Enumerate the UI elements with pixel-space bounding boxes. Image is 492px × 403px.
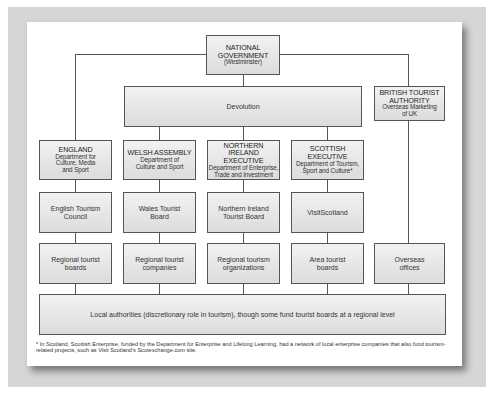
ni-board-line-2: Tourist Board [223, 213, 264, 221]
overseas-line-2: offices [399, 264, 419, 272]
wales-sub-2: Culture and Sport [136, 164, 184, 171]
welsh-assembly-box: WELSH ASSEMBLY Department of Culture and… [123, 140, 196, 180]
england-sub-3: and Sport [62, 167, 88, 174]
national-government-sub: (Westminster) [224, 59, 262, 66]
ni-sub-2: Trade and Investment [214, 172, 273, 179]
connector-devolution-scotland [327, 126, 328, 140]
scotland-board-line-1: VisitScotland [307, 209, 347, 217]
regional-tourist-companies-box: Regional tourist companies [123, 243, 196, 284]
connector-col4-r3 [327, 283, 328, 294]
connector-col1-r3 [75, 283, 76, 294]
wales-tourist-board-box: Wales Tourist Board [123, 192, 196, 233]
local-authorities-label: Local authorities (discretionary role in… [90, 311, 394, 319]
wales-regional-line-1: Regional tourist [135, 256, 184, 264]
footnote: * In Scotland, Scottish Enterprise, fund… [36, 341, 456, 354]
english-board-line-2: Council [64, 213, 87, 221]
northern-ireland-executive-box: NORTHERN IRELAND EXECUTIVE Department of… [207, 140, 280, 180]
connector-england-drop [75, 54, 76, 140]
devolution-label: Devolution [226, 103, 259, 111]
connector-col2-r1 [159, 179, 160, 192]
england-regional-line-2: boards [65, 264, 86, 272]
overseas-offices-box: Overseas offices [374, 243, 445, 284]
local-authorities-box: Local authorities (discretionary role in… [39, 294, 446, 335]
connector-bta-drop [408, 54, 409, 86]
ni-board-line-1: Northern Ireland [218, 205, 269, 213]
scottish-executive-box: SCOTTISH EXECUTIVE Department of Tourism… [291, 140, 364, 180]
regional-tourism-organizations-box: Regional tourism organizations [207, 243, 280, 284]
connector-col4-r1 [327, 179, 328, 192]
england-regional-line-1: Regional tourist [51, 256, 100, 264]
national-government-box: NATIONAL GOVERNMENT (Westminster) [206, 35, 280, 75]
visitscotland-box: VisitScotland [291, 192, 364, 233]
connector-col3-r3 [243, 283, 244, 294]
connector-col4-r2 [327, 232, 328, 243]
connector-devolution-ni [243, 126, 244, 140]
ni-regional-line-1: Regional tourism [217, 256, 270, 264]
ni-regional-line-2: organizations [223, 264, 265, 272]
area-tourist-boards-box: Area tourist boards [291, 243, 364, 284]
connector-overseas-local [408, 283, 409, 294]
connector-devolution-wales [159, 126, 160, 140]
scotland-regional-line-2: boards [317, 264, 338, 272]
devolution-box: Devolution [124, 86, 362, 127]
wales-regional-line-2: companies [143, 264, 177, 272]
northern-ireland-tourist-board-box: Northern Ireland Tourist Board [207, 192, 280, 233]
wales-board-line-1: Wales Tourist [139, 205, 181, 213]
overseas-line-1: Overseas [395, 256, 425, 264]
connector-col1-r1 [75, 179, 76, 192]
figure-caption-cropped [8, 397, 308, 403]
england-department-box: ENGLAND Department for Culture, Media an… [39, 140, 112, 180]
connector-col3-r2 [243, 232, 244, 243]
english-tourism-council-box: English Tourism Council [39, 192, 112, 233]
scotland-sub-2: Sport and Culture* [302, 168, 352, 175]
regional-tourist-boards-box: Regional tourist boards [39, 243, 112, 284]
scotland-title: SCOTTISH EXECUTIVE [292, 145, 363, 161]
connector-col1-r2 [75, 232, 76, 243]
bta-sub-2: of UK [402, 111, 417, 118]
ni-title: NORTHERN IRELAND [208, 142, 279, 158]
scotland-regional-line-1: Area tourist [310, 256, 346, 264]
connector-bta-overseas [408, 120, 409, 243]
english-board-line-1: English Tourism [51, 205, 100, 213]
connector-col3-r1 [243, 179, 244, 192]
connector-col2-r2 [159, 232, 160, 243]
wales-board-line-2: Board [150, 213, 169, 221]
connector-col2-r3 [159, 283, 160, 294]
british-tourist-authority-box: BRITISH TOURIST AUTHORITY Overseas Marke… [374, 86, 445, 121]
